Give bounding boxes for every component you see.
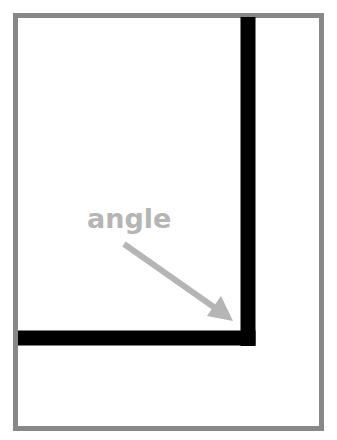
arrow-icon [124,244,233,321]
angle-diagram: angle [0,0,337,440]
angle-label: angle [87,203,171,234]
